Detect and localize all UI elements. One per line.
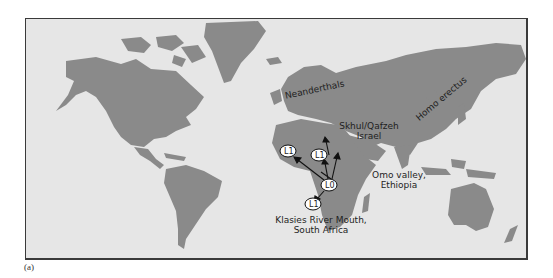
figure-caption: (a) (24, 262, 34, 272)
greenland (204, 21, 266, 83)
label-klasies-river: Klasies River Mouth, South Africa (266, 215, 376, 235)
australia (448, 183, 494, 231)
south-america (164, 165, 222, 249)
label-omo-valley: Omo valley, Ethiopia (364, 170, 434, 190)
marker-l1-northeast: L1 (315, 151, 325, 161)
world-map-frame: L1 L1 L0 L1 Neanderthals Homo erectus Sk… (25, 18, 528, 260)
marker-l0-east: L0 (325, 181, 335, 191)
label-skhul-qafzeh: Skhul/Qafzeh Israel (334, 121, 404, 141)
marker-l1-west: L1 (284, 147, 294, 157)
north-america (56, 57, 204, 147)
marker-l1-south: L1 (309, 200, 319, 210)
